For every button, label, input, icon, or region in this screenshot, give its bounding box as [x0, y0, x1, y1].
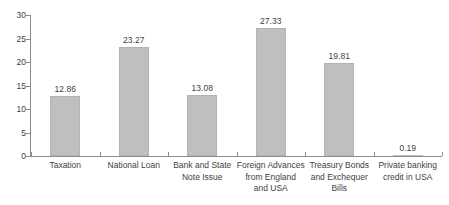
x-category-label-line: Foreign Advances [237, 160, 306, 172]
bar-slot: 13.08 [168, 15, 237, 156]
y-tick-label: 30 [0, 11, 26, 20]
x-category-label: Private bankingcredit in USA [374, 160, 443, 183]
y-tick-label: 15 [0, 81, 26, 90]
x-category-label-line: and Exchequer [305, 172, 374, 184]
y-tick-label: 5 [0, 128, 26, 137]
x-tick-mark [442, 152, 443, 156]
y-axis-tick-labels: 051015202530 [0, 0, 26, 205]
x-category-label-line: Treasury Bonds [305, 160, 374, 172]
y-tick-label: 0 [0, 152, 26, 161]
x-axis-category-labels: TaxationNational LoanBank and StateNote … [31, 160, 442, 205]
bar[interactable] [187, 95, 217, 156]
plot-area: 12.8623.2713.0827.3319.810.19 [31, 15, 442, 156]
x-category-label-line: Note Issue [168, 172, 237, 184]
x-category-label: National Loan [100, 160, 169, 172]
x-tick-mark [374, 152, 375, 156]
bar-chart: 051015202530 12.8623.2713.0827.3319.810.… [0, 0, 449, 205]
x-category-label-line: from England [237, 172, 306, 184]
x-category-label-line: Taxation [31, 160, 100, 172]
x-tick-mark [237, 152, 238, 156]
y-tick-mark [26, 15, 30, 16]
y-tick-label: 25 [0, 34, 26, 43]
x-category-label: Treasury Bondsand ExchequerBills [305, 160, 374, 195]
bar-value-label: 23.27 [123, 35, 144, 45]
x-axis-line [30, 156, 442, 157]
bar[interactable] [324, 63, 354, 156]
bar-slot: 27.33 [237, 15, 306, 156]
x-category-label: Foreign Advancesfrom Englandand USA [237, 160, 306, 195]
bar-value-label: 12.86 [55, 84, 76, 94]
x-category-label-line: National Loan [100, 160, 169, 172]
x-category-label-line: Bank and State [168, 160, 237, 172]
y-tick-mark [26, 133, 30, 134]
bar[interactable] [393, 155, 423, 156]
x-category-label: Bank and StateNote Issue [168, 160, 237, 183]
x-category-label-line: and USA [237, 183, 306, 195]
bar-value-label: 27.33 [260, 16, 281, 26]
x-tick-mark [305, 152, 306, 156]
y-tick-mark [26, 156, 30, 157]
bar-slot: 23.27 [100, 15, 169, 156]
y-tick-label: 20 [0, 58, 26, 67]
x-tick-mark [168, 152, 169, 156]
x-category-label: Taxation [31, 160, 100, 172]
y-tick-mark [26, 109, 30, 110]
bar-value-label: 0.19 [399, 143, 416, 153]
x-tick-mark [100, 152, 101, 156]
bar-slot: 0.19 [374, 15, 443, 156]
bar-slot: 12.86 [31, 15, 100, 156]
bar[interactable] [50, 96, 80, 156]
bar-value-label: 19.81 [329, 51, 350, 61]
x-category-label-line: Private banking [374, 160, 443, 172]
bar-value-label: 13.08 [192, 83, 213, 93]
y-tick-mark [26, 86, 30, 87]
y-tick-mark [26, 62, 30, 63]
x-category-label-line: credit in USA [374, 172, 443, 184]
y-tick-mark [26, 39, 30, 40]
bar[interactable] [119, 47, 149, 156]
x-tick-mark [31, 152, 32, 156]
x-category-label-line: Bills [305, 183, 374, 195]
bar[interactable] [256, 28, 286, 156]
y-tick-label: 10 [0, 105, 26, 114]
bar-slot: 19.81 [305, 15, 374, 156]
